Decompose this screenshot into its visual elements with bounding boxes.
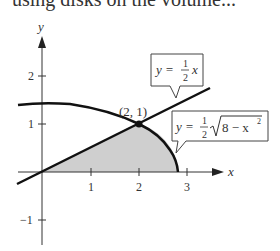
eq2-exponent: 2: [257, 117, 261, 126]
eq1-den: 2: [183, 72, 188, 83]
x-axis-label: x: [227, 164, 234, 179]
tick-y-2: 2: [28, 69, 34, 83]
eq1-var: x: [191, 62, 198, 77]
eq2-radicand: 8 − x: [222, 120, 249, 135]
eq2-num: 1: [202, 115, 207, 126]
point-label: (2, 1): [119, 104, 147, 119]
tick-y-neg1: −1: [20, 213, 33, 227]
y-axis-label: y: [36, 19, 44, 34]
tick-x-2: 2: [136, 180, 142, 194]
tick-x-1: 1: [88, 180, 94, 194]
tick-x-3: 3: [184, 180, 190, 194]
tick-y-1: 1: [28, 117, 34, 131]
eq2-lhs: y =: [174, 119, 194, 134]
eq2-den: 2: [202, 129, 207, 140]
y-axis-arrow-icon: [38, 36, 46, 48]
eq1-num: 1: [183, 58, 188, 69]
chart: using disks on the volume... 1 2 3 2 1 −…: [0, 0, 280, 251]
intersection-point: [136, 121, 143, 128]
eq1-lhs: y =: [154, 62, 174, 77]
shaded-region: [42, 124, 178, 172]
header-text: using disks on the volume...: [12, 0, 236, 11]
x-axis-arrow-icon: [212, 168, 224, 176]
